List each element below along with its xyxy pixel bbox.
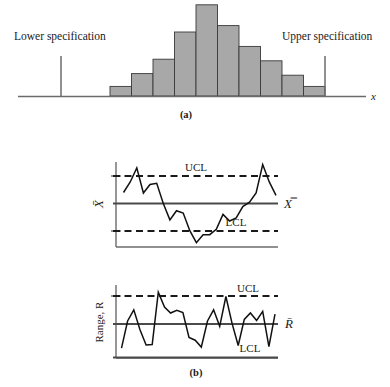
r-control-chart-group: UCL LCL Range, R R̄ (b) xyxy=(93,282,293,379)
histogram-bars xyxy=(110,5,325,96)
panel-a-caption: (a) xyxy=(180,109,193,121)
r-right-center-label: R̄ xyxy=(284,316,293,331)
histogram-bar xyxy=(153,59,175,96)
histogram-bar xyxy=(261,61,283,96)
figure-root: Lower specification Upper specification … xyxy=(0,0,390,387)
histogram-bar xyxy=(218,26,240,96)
xbar-ucl-label: UCL xyxy=(185,161,207,173)
histogram-bar xyxy=(196,5,218,96)
xbar-right-center-label: X̿ xyxy=(283,196,298,211)
xbar-control-chart-group: UCL LCL X̄ X̿ xyxy=(91,161,298,247)
xbar-lcl-label: LCL xyxy=(226,216,247,228)
panel-b-caption: (b) xyxy=(190,367,203,379)
upper-specification-label: Upper specification xyxy=(282,30,373,43)
histogram-bar xyxy=(239,46,261,96)
statistical-process-control-figure: Lower specification Upper specification … xyxy=(0,0,390,387)
panel-a-group: Lower specification Upper specification … xyxy=(14,5,376,121)
lower-specification-label: Lower specification xyxy=(14,30,106,43)
xbar-left-axis-label: X̄ xyxy=(91,199,106,209)
histogram-bar xyxy=(110,86,132,96)
r-ucl-label: UCL xyxy=(237,282,259,294)
histogram-bar xyxy=(304,86,326,96)
r-data-series xyxy=(122,292,276,348)
r-lcl-label: LCL xyxy=(240,342,261,354)
histogram-bar xyxy=(175,32,197,96)
r-left-axis-label: Range, R xyxy=(93,301,105,343)
histogram-bar xyxy=(132,74,154,96)
panel-a-x-axis-label: x xyxy=(370,90,376,102)
histogram-bar xyxy=(282,75,304,96)
